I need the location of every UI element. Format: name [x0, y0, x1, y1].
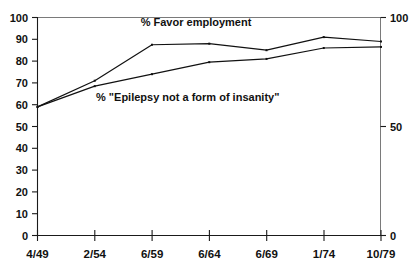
y-left-tick-label: 10 — [16, 208, 28, 220]
x-tick-label: 6/59 — [141, 248, 163, 260]
data-point — [266, 49, 268, 51]
data-point — [37, 106, 39, 108]
y-left-tick-label: 50 — [16, 121, 28, 133]
y-right-tick-label: 50 — [390, 121, 402, 133]
y-left-tick-label: 30 — [16, 164, 28, 176]
data-point — [380, 46, 382, 48]
y-left-tick-label: 40 — [16, 142, 28, 154]
x-tick-label: 4/49 — [26, 248, 48, 260]
y-right-tick-label: 0 — [390, 230, 396, 242]
data-point — [151, 73, 153, 75]
data-point — [380, 40, 382, 42]
line-chart: 100 90 80 70 60 50 40 30 20 10 0 100 50 … — [0, 0, 418, 272]
data-point — [208, 43, 210, 45]
y-left-tick-label: 70 — [16, 77, 28, 89]
x-tick-label: 10/79 — [367, 248, 396, 260]
y-left-tick-label: 80 — [16, 55, 28, 67]
x-tick-label: 2/54 — [84, 248, 107, 260]
data-point — [94, 85, 96, 87]
data-point — [266, 58, 268, 60]
y-left-tick-label: 100 — [10, 12, 28, 24]
data-point — [94, 80, 96, 82]
y-left-tick-label: 90 — [16, 33, 28, 45]
y-right-tick-label: 100 — [390, 12, 408, 24]
data-point — [208, 61, 210, 63]
y-left-tick-label: 20 — [16, 186, 28, 198]
x-tick-label: 6/64 — [198, 248, 221, 260]
y-left-tick-label: 60 — [16, 99, 28, 111]
annotation-not-insanity: % "Epilepsy not a form of insanity" — [96, 91, 279, 103]
data-point — [323, 36, 325, 38]
y-left-tick-label: 0 — [22, 230, 28, 242]
annotation-favor-employment: % Favor employment — [141, 16, 252, 28]
data-point — [323, 47, 325, 49]
chart-container: 100 90 80 70 60 50 40 30 20 10 0 100 50 … — [0, 0, 418, 272]
x-tick-label: 1/74 — [313, 248, 336, 260]
x-tick-label: 6/69 — [256, 248, 278, 260]
data-point — [151, 44, 153, 46]
